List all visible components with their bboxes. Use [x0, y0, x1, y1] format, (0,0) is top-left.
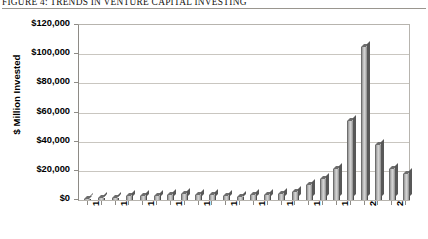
bar: [320, 179, 327, 200]
bar: [292, 192, 299, 200]
bar: [250, 195, 257, 200]
bar-side-face: [367, 41, 370, 197]
x-axis-tick-mark: [198, 201, 199, 205]
bar: [278, 194, 285, 200]
bar: [181, 194, 188, 200]
plot-area: [78, 24, 410, 201]
x-axis-tick-mark: [336, 201, 337, 205]
x-axis-tick-mark: [364, 201, 365, 205]
x-axis-tick-mark: [322, 201, 323, 205]
bar-side-face: [132, 190, 135, 197]
bar: [84, 199, 91, 200]
y-axis-tick-label: $0: [8, 193, 70, 203]
gridline: [79, 171, 409, 172]
x-axis-tick-mark: [128, 201, 129, 205]
bar: [140, 196, 147, 200]
bar-side-face: [326, 173, 329, 197]
bar: [195, 195, 202, 200]
bar: [98, 198, 105, 200]
x-axis-tick-mark: [267, 201, 268, 205]
bar: [154, 196, 161, 200]
y-axis-tick-label: $120,000: [8, 18, 70, 28]
bar: [403, 174, 410, 200]
x-axis-tick-mark: [350, 201, 351, 205]
bar-side-face: [243, 191, 246, 197]
bar: [264, 195, 271, 200]
bar-side-face: [173, 189, 176, 197]
bar-side-face: [270, 189, 273, 197]
bar: [112, 198, 119, 200]
x-axis-tick-mark: [239, 201, 240, 205]
bar: [333, 169, 340, 200]
title-divider: [2, 8, 426, 9]
bar-side-face: [146, 190, 149, 197]
figure-title: FIGURE 4: TRENDS IN VENTURE CAPITAL INVE…: [0, 0, 428, 8]
x-axis-tick-mark: [87, 201, 88, 205]
y-axis-tick-label: $60,000: [8, 106, 70, 116]
bar-side-face: [284, 188, 287, 197]
x-axis-tick-mark: [184, 201, 185, 205]
bar-side-face: [229, 190, 232, 197]
bar-side-face: [187, 188, 190, 197]
bar-side-face: [201, 189, 204, 197]
x-axis-tick-mark: [308, 201, 309, 205]
x-axis-tick-mark: [281, 201, 282, 205]
bar: [361, 47, 368, 200]
bar-side-face: [409, 168, 412, 197]
bar-side-face: [298, 186, 301, 197]
x-axis-tick-mark: [211, 201, 212, 205]
x-axis-tick-mark: [225, 201, 226, 205]
gridline: [79, 83, 409, 84]
bar-top-face: [84, 196, 92, 199]
bar: [167, 195, 174, 200]
bar-side-face: [215, 189, 218, 197]
figure-title-container: FIGURE 4: TRENDS IN VENTURE CAPITAL INVE…: [0, 0, 428, 8]
x-axis-tick-mark: [294, 201, 295, 205]
bar: [209, 195, 216, 200]
y-axis-tick-label: $20,000: [8, 164, 70, 174]
bar-side-face: [118, 192, 121, 197]
bar-side-face: [353, 115, 356, 197]
gridline: [79, 142, 409, 143]
x-axis-tick-mark: [391, 201, 392, 205]
x-axis-tick-mark: [115, 201, 116, 205]
bar: [237, 197, 244, 200]
gridline: [79, 113, 409, 114]
x-axis-tick-mark: [253, 201, 254, 205]
bar-top-face: [98, 195, 106, 198]
bar: [223, 196, 230, 200]
bar: [389, 169, 396, 200]
y-axis-tick-label: $100,000: [8, 47, 70, 57]
bar: [126, 196, 133, 200]
x-axis-tick-mark: [101, 201, 102, 205]
y-axis-tick-label: $80,000: [8, 76, 70, 86]
x-axis-tick-mark: [377, 201, 378, 205]
bar: [347, 121, 354, 200]
bar: [375, 145, 382, 200]
bar-side-face: [312, 179, 315, 197]
gridline: [79, 54, 409, 55]
x-axis-tick-mark: [156, 201, 157, 205]
bar-side-face: [339, 163, 342, 197]
x-axis-tick-mark: [142, 201, 143, 205]
x-axis-tick-mark: [170, 201, 171, 205]
bar: [306, 185, 313, 200]
x-axis-tick-mark: [405, 201, 406, 205]
bar-side-face: [160, 190, 163, 197]
chart-container: $ Million Invested $120,000$100,000$80,0…: [0, 11, 428, 239]
bar-side-face: [395, 163, 398, 197]
bar-side-face: [381, 139, 384, 197]
bar-side-face: [256, 189, 259, 197]
y-axis-tick-label: $40,000: [8, 135, 70, 145]
